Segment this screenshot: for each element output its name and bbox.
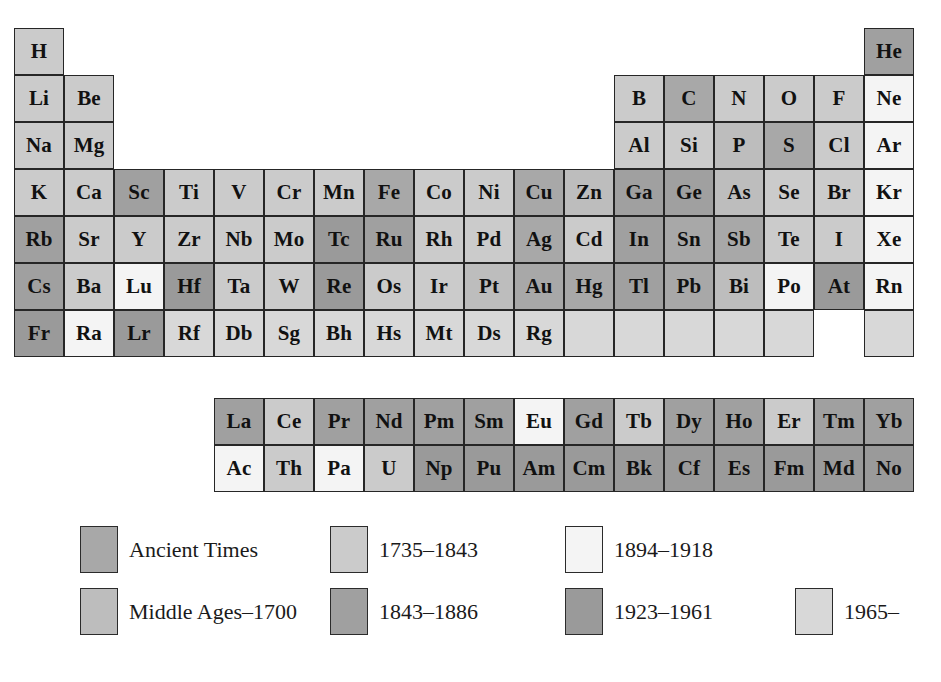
element-cell-empty-m86: [714, 310, 764, 357]
legend-swatch-middle_ages_1700: [80, 588, 118, 635]
element-cell-Re: Re: [314, 263, 364, 310]
element-cell-Cf: Cf: [664, 445, 714, 492]
element-cell-C: C: [664, 75, 714, 122]
element-cell-Ar: Ar: [864, 122, 914, 169]
element-cell-Ne: Ne: [864, 75, 914, 122]
element-cell-Zn: Zn: [564, 169, 614, 216]
element-cell-F: F: [814, 75, 864, 122]
legend-item: 1894–1918: [565, 526, 713, 573]
element-cell-Li: Li: [14, 75, 64, 122]
element-cell-Np: Np: [414, 445, 464, 492]
element-cell-Dy: Dy: [664, 398, 714, 445]
element-cell-Ir: Ir: [414, 263, 464, 310]
element-cell-No: No: [864, 445, 914, 492]
element-cell-Ca: Ca: [64, 169, 114, 216]
element-cell-N: N: [714, 75, 764, 122]
element-cell-Db: Db: [214, 310, 264, 357]
element-cell-Po: Po: [764, 263, 814, 310]
legend-label: Ancient Times: [129, 537, 258, 563]
element-cell-Rn: Rn: [864, 263, 914, 310]
element-cell-Ni: Ni: [464, 169, 514, 216]
legend: Ancient Times1735–18431894–1918Middle Ag…: [0, 512, 941, 682]
legend-item: Middle Ages–1700: [80, 588, 297, 635]
element-cell-Ag: Ag: [514, 216, 564, 263]
element-cell-Tb: Tb: [614, 398, 664, 445]
element-cell-Ce: Ce: [264, 398, 314, 445]
element-cell-Zr: Zr: [164, 216, 214, 263]
element-cell-Be: Be: [64, 75, 114, 122]
legend-label: 1894–1918: [614, 537, 713, 563]
element-cell-Ti: Ti: [164, 169, 214, 216]
legend-label: 1965–: [844, 599, 899, 625]
element-cell-Se: Se: [764, 169, 814, 216]
element-cell-Ho: Ho: [714, 398, 764, 445]
legend-swatch-y1965_: [795, 588, 833, 635]
element-cell-Lu: Lu: [114, 263, 164, 310]
element-cell-H: H: [14, 28, 64, 75]
legend-swatch-y1735_1843: [330, 526, 368, 573]
element-cell-K: K: [14, 169, 64, 216]
legend-item: 1965–: [795, 588, 899, 635]
element-cell-Pa: Pa: [314, 445, 364, 492]
element-cell-Mo: Mo: [264, 216, 314, 263]
element-cell-Hf: Hf: [164, 263, 214, 310]
element-cell-In: In: [614, 216, 664, 263]
element-cell-Sb: Sb: [714, 216, 764, 263]
element-cell-Ba: Ba: [64, 263, 114, 310]
element-cell-Cr: Cr: [264, 169, 314, 216]
element-cell-empty-m84: [614, 310, 664, 357]
element-cell-U: U: [364, 445, 414, 492]
element-cell-Nd: Nd: [364, 398, 414, 445]
element-cell-Am: Am: [514, 445, 564, 492]
element-cell-empty-m87: [764, 310, 814, 357]
element-cell-He: He: [864, 28, 914, 75]
element-cell-Tl: Tl: [614, 263, 664, 310]
element-cell-Y: Y: [114, 216, 164, 263]
element-cell-Os: Os: [364, 263, 414, 310]
element-cell-Mn: Mn: [314, 169, 364, 216]
element-cell-Bk: Bk: [614, 445, 664, 492]
element-cell-Bi: Bi: [714, 263, 764, 310]
element-cell-Xe: Xe: [864, 216, 914, 263]
element-cell-empty-m85: [664, 310, 714, 357]
element-cell-Sc: Sc: [114, 169, 164, 216]
element-cell-Cs: Cs: [14, 263, 64, 310]
element-cell-Rg: Rg: [514, 310, 564, 357]
element-cell-Br: Br: [814, 169, 864, 216]
element-cell-Nb: Nb: [214, 216, 264, 263]
element-cell-Pt: Pt: [464, 263, 514, 310]
legend-item: 1735–1843: [330, 526, 478, 573]
element-cell-Ds: Ds: [464, 310, 514, 357]
element-cell-Ru: Ru: [364, 216, 414, 263]
legend-item: 1843–1886: [330, 588, 478, 635]
element-cell-Hs: Hs: [364, 310, 414, 357]
element-cell-Te: Te: [764, 216, 814, 263]
element-cell-Pu: Pu: [464, 445, 514, 492]
legend-label: Middle Ages–1700: [129, 599, 297, 625]
element-cell-V: V: [214, 169, 264, 216]
legend-item: 1923–1961: [565, 588, 713, 635]
element-cell-Lr: Lr: [114, 310, 164, 357]
element-cell-Rf: Rf: [164, 310, 214, 357]
element-cell-S: S: [764, 122, 814, 169]
element-cell-Mg: Mg: [64, 122, 114, 169]
element-cell-Rh: Rh: [414, 216, 464, 263]
element-cell-Si: Si: [664, 122, 714, 169]
element-cell-Cl: Cl: [814, 122, 864, 169]
element-cell-I: I: [814, 216, 864, 263]
element-cell-Cd: Cd: [564, 216, 614, 263]
element-cell-At: At: [814, 263, 864, 310]
element-cell-Pm: Pm: [414, 398, 464, 445]
element-cell-Md: Md: [814, 445, 864, 492]
element-cell-Eu: Eu: [514, 398, 564, 445]
element-cell-Rb: Rb: [14, 216, 64, 263]
legend-swatch-y1923_1961: [565, 588, 603, 635]
element-cell-Sr: Sr: [64, 216, 114, 263]
element-cell-Pb: Pb: [664, 263, 714, 310]
legend-label: 1923–1961: [614, 599, 713, 625]
element-cell-empty-m88: [864, 310, 914, 357]
element-cell-Pr: Pr: [314, 398, 364, 445]
element-cell-Ra: Ra: [64, 310, 114, 357]
element-cell-Ge: Ge: [664, 169, 714, 216]
element-cell-Tc: Tc: [314, 216, 364, 263]
